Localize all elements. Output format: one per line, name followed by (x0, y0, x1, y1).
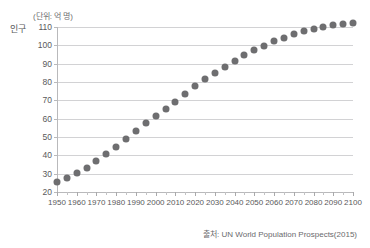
x-tick-mark-1955 (67, 192, 68, 195)
data-point (350, 20, 357, 27)
x-tick-mark-2065 (284, 192, 285, 195)
x-tick-label-2040: 2040 (226, 198, 244, 207)
data-point (63, 174, 70, 181)
data-point (83, 164, 90, 171)
x-tick-label-1980: 1980 (107, 198, 125, 207)
x-tick-label-1950: 1950 (48, 198, 66, 207)
x-tick-mark-2020 (195, 192, 196, 196)
x-tick-mark-2050 (254, 192, 255, 196)
x-tick-mark-2045 (244, 192, 245, 195)
data-point (271, 38, 278, 45)
x-tick-label-2100: 2100 (344, 198, 362, 207)
data-point (123, 136, 130, 143)
x-tick-label-2000: 2000 (147, 198, 165, 207)
data-point (172, 98, 179, 105)
x-tick-mark-2010 (175, 192, 176, 196)
data-point (113, 143, 120, 150)
data-point (231, 57, 238, 64)
x-tick-mark-2040 (235, 192, 236, 196)
data-point-layer (57, 27, 353, 192)
x-tick-label-2070: 2070 (285, 198, 303, 207)
x-tick-label-2030: 2030 (206, 198, 224, 207)
x-tick-mark-2005 (166, 192, 167, 195)
y-axis-unit-note: (단위: 억 명) (33, 10, 73, 21)
chart-container: 인구 (단위: 억 명) 2030405060708090100110 1950… (0, 0, 370, 248)
x-tick-mark-1970 (96, 192, 97, 196)
y-tick-label-50: 50 (43, 132, 52, 142)
data-point (182, 90, 189, 97)
plot-area: 2030405060708090100110 (57, 27, 353, 192)
x-tick-mark-2075 (304, 192, 305, 195)
x-tick-label-2010: 2010 (166, 198, 184, 207)
y-tick-label-60: 60 (43, 114, 52, 124)
data-point (310, 25, 317, 32)
data-point (261, 42, 268, 49)
x-tick-label-1960: 1960 (68, 198, 86, 207)
data-point (320, 23, 327, 30)
y-tick-label-110: 110 (38, 22, 52, 32)
x-tick-label-2050: 2050 (245, 198, 263, 207)
data-point (103, 151, 110, 158)
data-point (211, 69, 218, 76)
data-point (93, 158, 100, 165)
y-tick-label-100: 100 (38, 40, 52, 50)
x-tick-mark-1980 (116, 192, 117, 196)
x-tick-mark-1985 (126, 192, 127, 195)
x-tick-label-1970: 1970 (88, 198, 106, 207)
data-point (241, 52, 248, 59)
x-tick-mark-1995 (146, 192, 147, 195)
x-tick-mark-2060 (274, 192, 275, 196)
x-tick-mark-2000 (156, 192, 157, 196)
y-axis-title: 인구 (10, 22, 26, 35)
data-point (152, 113, 159, 120)
x-tick-label-2080: 2080 (305, 198, 323, 207)
y-tick-label-20: 20 (43, 187, 52, 197)
data-point (73, 170, 80, 177)
data-point (280, 34, 287, 41)
x-tick-mark-1975 (106, 192, 107, 195)
x-tick-label-2090: 2090 (324, 198, 342, 207)
x-tick-mark-2025 (205, 192, 206, 195)
x-tick-mark-2100 (353, 192, 354, 196)
x-tick-mark-2015 (185, 192, 186, 195)
data-point (162, 106, 169, 113)
data-point (290, 31, 297, 38)
data-point (192, 83, 199, 90)
x-tick-mark-1990 (136, 192, 137, 196)
x-tick-mark-1950 (57, 192, 58, 196)
y-tick-label-80: 80 (43, 77, 52, 87)
data-point (251, 47, 258, 54)
x-tick-mark-2080 (314, 192, 315, 196)
x-tick-mark-2095 (343, 192, 344, 195)
x-tick-mark-2090 (333, 192, 334, 196)
y-tick-label-90: 90 (43, 59, 52, 69)
x-tick-mark-2035 (225, 192, 226, 195)
source-note: 출처: UN World Population Prospects(2015) (203, 228, 357, 239)
data-point (221, 63, 228, 70)
x-tick-label-2060: 2060 (265, 198, 283, 207)
x-tick-label-2020: 2020 (186, 198, 204, 207)
data-point (54, 179, 61, 186)
data-point (142, 120, 149, 127)
data-point (132, 127, 139, 134)
data-point (330, 22, 337, 29)
x-tick-mark-2085 (323, 192, 324, 195)
x-tick-mark-2055 (264, 192, 265, 195)
y-tick-label-70: 70 (43, 95, 52, 105)
y-tick-label-30: 30 (43, 169, 52, 179)
x-tick-mark-1965 (87, 192, 88, 195)
data-point (340, 21, 347, 28)
data-point (300, 28, 307, 35)
data-point (202, 76, 209, 83)
x-tick-mark-2070 (294, 192, 295, 196)
x-tick-mark-2030 (215, 192, 216, 196)
x-tick-label-1990: 1990 (127, 198, 145, 207)
y-tick-label-40: 40 (43, 150, 52, 160)
x-tick-mark-1960 (77, 192, 78, 196)
